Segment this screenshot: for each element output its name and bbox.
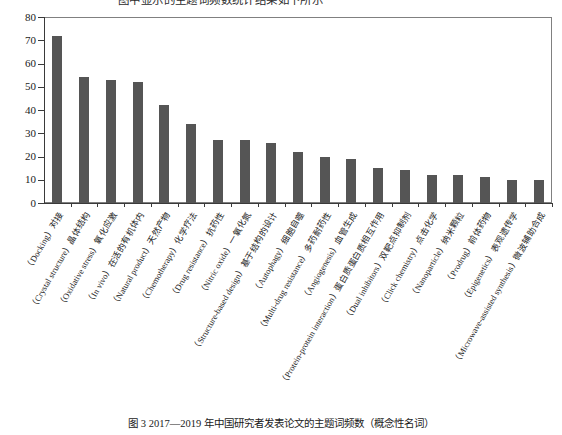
figure-caption: 图 3 2017—2019 年中国研究者发表论文的主题词频数（概念性名词） <box>0 418 562 435</box>
y-axis-tick-label: 70 <box>14 35 36 46</box>
y-axis-tick <box>38 203 44 204</box>
bar <box>427 175 437 203</box>
y-axis-tick-label: 30 <box>14 128 36 139</box>
x-axis-tick <box>552 203 553 207</box>
y-axis-tick <box>38 157 44 158</box>
y-axis-tick-label: 60 <box>14 58 36 69</box>
x-axis-tick <box>285 203 286 207</box>
bar <box>534 180 544 203</box>
y-axis-tick-label: 50 <box>14 81 36 92</box>
y-axis-tick <box>38 133 44 134</box>
y-axis-tick <box>38 40 44 41</box>
x-axis-tick <box>365 203 366 207</box>
x-axis-tick <box>231 203 232 207</box>
y-axis-tick-label: 80 <box>14 12 36 23</box>
top-cropped-text: 图中显示的主题词频数统计结果如下所示 <box>0 0 562 11</box>
y-axis-tick <box>38 64 44 65</box>
y-axis-tick <box>38 87 44 88</box>
x-axis-tick <box>338 203 339 207</box>
bar <box>186 124 196 203</box>
x-axis-tick <box>204 203 205 207</box>
x-axis-tick-label: （In vivo）在活的有机体内 <box>38 210 146 388</box>
bar <box>159 105 169 203</box>
x-axis-tick <box>258 203 259 207</box>
x-axis-tick-label: （Epigenetics）表观遗传学 <box>412 210 520 388</box>
bar <box>320 157 330 204</box>
bar <box>293 152 303 203</box>
x-axis-tick <box>71 203 72 207</box>
x-axis-tick-label: （Angiogenesis）血管生成 <box>252 210 360 388</box>
x-axis-tick-label: （Nitric oxide）一氧化氮 <box>145 210 253 388</box>
y-axis-tick-label: 0 <box>14 198 36 209</box>
bar <box>52 36 62 203</box>
bar <box>106 80 116 203</box>
x-axis-labels: （Docking）对接（Crystal structure）晶体结构（Oxida… <box>0 208 562 398</box>
bar <box>346 159 356 203</box>
x-axis-tick <box>418 203 419 207</box>
y-axis-tick <box>38 180 44 181</box>
bar <box>507 180 517 203</box>
bar <box>240 140 250 203</box>
x-axis-tick-label: （Nanoparticle）纳米颗粒 <box>359 210 467 388</box>
x-axis-tick <box>499 203 500 207</box>
x-axis-tick <box>311 203 312 207</box>
bar <box>79 77 89 203</box>
bar-chart: 01020304050607080 （Docking）对接（Crystal st… <box>0 11 562 411</box>
bar <box>133 82 143 203</box>
x-axis-tick <box>445 203 446 207</box>
y-axis-tick-label: 20 <box>14 151 36 162</box>
bar <box>266 143 276 203</box>
x-axis-line <box>44 203 553 204</box>
x-axis-tick <box>392 203 393 207</box>
bar <box>213 140 223 203</box>
y-axis-line <box>44 17 45 204</box>
bar <box>480 177 490 203</box>
x-axis-tick-label: （Microwave-assisted synthesis）微波辅助合成 <box>439 210 547 388</box>
x-axis-tick <box>124 203 125 207</box>
y-axis-tick <box>38 17 44 18</box>
x-axis-tick-label: （Prodrug）前体药物 <box>385 210 493 388</box>
x-axis-tick <box>525 203 526 207</box>
y-axis-tick-label: 10 <box>14 174 36 185</box>
x-axis-tick <box>151 203 152 207</box>
bar <box>373 168 383 203</box>
x-axis-tick <box>97 203 98 207</box>
x-axis-tick-label: （Natural product）天然产物 <box>64 210 172 388</box>
x-axis-tick <box>472 203 473 207</box>
bar <box>453 175 463 203</box>
y-axis-tick <box>38 110 44 111</box>
x-axis-tick <box>178 203 179 207</box>
y-axis-tick-label: 40 <box>14 105 36 116</box>
top-cropped-text-label: 图中显示的主题词频数统计结果如下所示 <box>118 0 323 7</box>
bar <box>400 170 410 203</box>
